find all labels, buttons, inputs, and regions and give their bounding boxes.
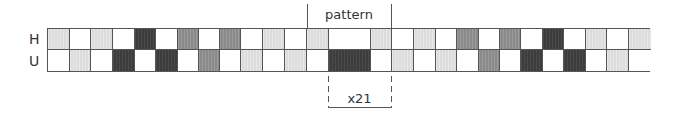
- repeat-bracket-right: [391, 76, 392, 108]
- cell-u-18-light: [436, 50, 457, 71]
- cell-u-14-dark: [329, 50, 371, 71]
- cell-h-19-medium: [457, 29, 479, 50]
- cell-u-25-white: [586, 50, 607, 71]
- cell-u-11-white: [263, 50, 285, 71]
- cell-h-10-white: [241, 29, 263, 50]
- cell-h-14-white: [329, 29, 371, 50]
- cell-u-1-white: [48, 50, 70, 71]
- cell-u-27-white: [629, 50, 651, 71]
- cell-u-4-dark: [113, 50, 135, 71]
- cell-h-25-light: [586, 29, 607, 50]
- cell-u-15-white: [371, 50, 392, 71]
- cell-h-22-white: [521, 29, 543, 50]
- cell-h-8-white: [199, 29, 220, 50]
- pattern-label: pattern: [307, 8, 391, 21]
- cell-h-21-medium: [500, 29, 521, 50]
- cell-u-2-light: [70, 50, 91, 71]
- sequence-grid: [47, 28, 650, 72]
- cell-h-17-light: [414, 29, 436, 50]
- cell-h-2-white: [70, 29, 91, 50]
- cell-u-22-dark: [521, 50, 543, 71]
- cell-u-17-white: [414, 50, 436, 71]
- cell-h-1-light: [48, 29, 70, 50]
- cell-u-16-light: [392, 50, 414, 71]
- cell-h-6-white: [156, 29, 178, 50]
- cell-h-24-white: [564, 29, 586, 50]
- cell-h-15-light: [371, 29, 392, 50]
- cell-h-12-white: [285, 29, 307, 50]
- cell-u-23-white: [543, 50, 564, 71]
- cell-h-11-light: [263, 29, 285, 50]
- cell-u-21-white: [500, 50, 521, 71]
- cell-h-18-white: [436, 29, 457, 50]
- cell-h-20-white: [479, 29, 500, 50]
- cell-u-5-white: [135, 50, 156, 71]
- cell-u-3-white: [91, 50, 113, 71]
- cell-h-13-light: [307, 29, 329, 50]
- cell-h-3-light: [91, 29, 113, 50]
- cell-h-9-medium: [220, 29, 241, 50]
- cell-h-5-dark: [135, 29, 156, 50]
- row-label-h: H: [29, 32, 40, 46]
- cell-h-26-white: [607, 29, 629, 50]
- cell-u-24-dark: [564, 50, 586, 71]
- cell-u-7-white: [178, 50, 199, 71]
- cell-u-26-light: [607, 50, 629, 71]
- cell-u-19-white: [457, 50, 479, 71]
- cell-u-9-white: [220, 50, 241, 71]
- cell-u-13-white: [307, 50, 329, 71]
- cell-h-4-white: [113, 29, 135, 50]
- row-label-u: U: [29, 54, 39, 68]
- cell-u-20-medium: [479, 50, 500, 71]
- cell-u-8-medium: [199, 50, 220, 71]
- cell-u-10-light: [241, 50, 263, 71]
- pattern-bracket-right: [391, 4, 392, 28]
- cell-h-16-white: [392, 29, 414, 50]
- cell-h-23-dark: [543, 29, 564, 50]
- cell-u-12-light: [285, 50, 307, 71]
- repeat-count-label: x21: [328, 92, 391, 105]
- repeat-bracket-bottom: [328, 107, 392, 108]
- cell-u-6-dark: [156, 50, 178, 71]
- cell-h-27-light: [629, 29, 651, 50]
- cell-h-7-medium: [178, 29, 199, 50]
